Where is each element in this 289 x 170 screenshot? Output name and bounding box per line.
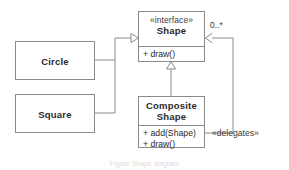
class-header-composite-shape: Composite Shape <box>139 97 204 125</box>
generalization-trunk-line <box>115 38 131 113</box>
class-box-shape[interactable]: «interface» Shape + draw() <box>138 11 205 62</box>
class-box-circle[interactable]: Circle <box>15 41 95 80</box>
class-name-composite-line2: Shape <box>157 111 187 122</box>
delegation-line <box>205 38 233 133</box>
delegation-arrowhead <box>206 34 213 43</box>
uml-class-diagram: «interface» Shape + draw() Composite Sha… <box>0 0 289 170</box>
stereotype-interface: «interface» <box>139 15 204 25</box>
operation-draw-composite: + draw() <box>143 139 204 150</box>
class-box-square[interactable]: Square <box>15 94 95 133</box>
operation-draw: + draw() <box>143 49 204 60</box>
class-name-composite-line1: Composite <box>146 100 197 111</box>
class-name-square: Square <box>16 109 94 120</box>
class-name-shape: Shape <box>157 25 187 36</box>
multiplicity-label: 0..* <box>210 20 223 30</box>
class-box-composite-shape[interactable]: Composite Shape + add(Shape) + draw() <box>138 96 205 148</box>
class-name-circle: Circle <box>16 56 94 67</box>
class-header-shape: «interface» Shape <box>139 12 204 46</box>
delegates-stereotype-label: «delegates» <box>212 128 259 138</box>
figure-caption: Figure Shape diagram <box>0 160 289 167</box>
operations-compartment-shape: + draw() <box>139 46 204 63</box>
operation-add-shape: + add(Shape) <box>143 128 204 139</box>
operations-compartment-composite: + add(Shape) + draw() <box>139 125 204 149</box>
